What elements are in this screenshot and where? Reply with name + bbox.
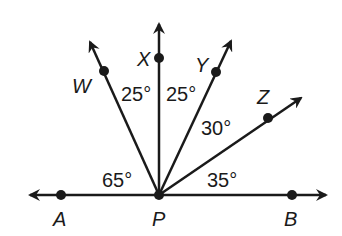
label-W: W [72, 75, 93, 97]
label-P: P [152, 208, 166, 230]
point-P [154, 190, 164, 200]
angle-XPY-label: 25° [166, 83, 196, 105]
point-B [287, 190, 297, 200]
angle-YPZ-label: 30° [201, 117, 231, 139]
point-W [99, 66, 109, 76]
angle-ZPB-label: 35° [207, 169, 237, 191]
label-A: A [52, 208, 66, 230]
label-Z: Z [256, 86, 270, 108]
label-Y: Y [195, 54, 210, 76]
label-B: B [284, 208, 297, 230]
angle-diagram: A P B W X Y Z 65° 25° 25° 30° 35° [0, 0, 342, 236]
label-X: X [136, 48, 151, 70]
point-Y [211, 67, 221, 77]
point-A [56, 190, 66, 200]
angle-APW-label: 65° [102, 169, 132, 191]
point-Z [263, 113, 273, 123]
point-X [154, 53, 164, 63]
angle-WPX-label: 25° [121, 83, 151, 105]
